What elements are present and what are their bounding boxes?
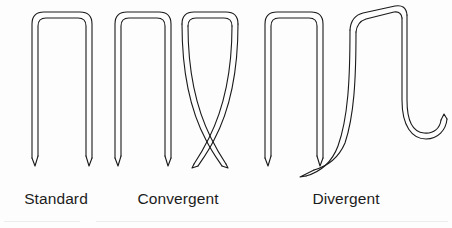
bottom-rule-right	[96, 221, 448, 222]
figure-page: Standard point Convergent point Divergen…	[0, 0, 452, 228]
caption-divergent-point: Divergent point	[276, 170, 416, 228]
bottom-rule-left	[4, 221, 80, 222]
staple-standard-1	[32, 12, 92, 166]
caption-divergent-line2: point	[276, 227, 416, 228]
caption-standard-line1: Standard	[0, 189, 112, 208]
staple-divergent-1	[265, 12, 323, 166]
caption-standard-point: Standard point	[0, 170, 112, 228]
staple-convergent-2	[182, 12, 238, 168]
caption-convergent-line2: point	[112, 227, 244, 228]
caption-convergent-point: Convergent point	[112, 170, 244, 228]
staple-convergent-1	[115, 12, 171, 166]
caption-divergent-line1: Divergent	[276, 189, 416, 208]
caption-convergent-line1: Convergent	[112, 189, 244, 208]
staple-divergent-2	[300, 6, 447, 177]
caption-standard-line2: point	[0, 227, 112, 228]
